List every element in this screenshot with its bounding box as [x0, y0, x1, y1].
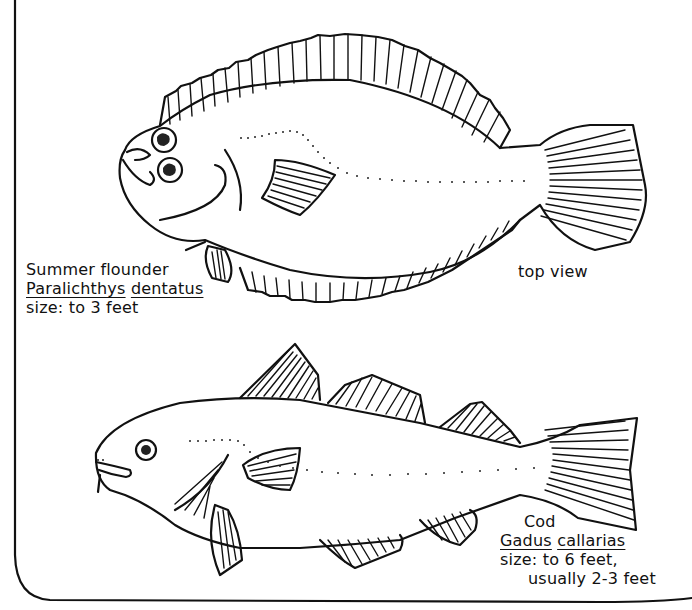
cod-dorsal-fin-2	[328, 375, 425, 423]
cod-lateral-line	[189, 439, 535, 476]
cod-scientific-name: Gadus callarias	[500, 531, 656, 550]
cod-species: callarias	[557, 531, 625, 550]
flounder-lateral-line	[240, 130, 525, 183]
cod-caption: Cod Gadus callarias size: to 6 feet, usu…	[500, 512, 656, 588]
flounder-body	[120, 80, 646, 278]
flounder-size: size: to 3 feet	[26, 298, 203, 317]
flounder-view-note: top view	[518, 262, 588, 281]
cod-genus: Gadus	[500, 531, 552, 550]
cod-mouth	[96, 462, 131, 477]
flounder-caption: Summer flounder Paralichthys dentatus si…	[26, 260, 203, 317]
cod-size-line-1: size: to 6 feet,	[500, 550, 656, 569]
cod-common-name: Cod	[500, 512, 656, 531]
cod-pectoral-fin	[243, 448, 300, 490]
flounder-genus: Paralichthys	[26, 279, 126, 298]
cod-barbel	[98, 475, 100, 492]
cod-size-line-2: usually 2-3 feet	[500, 569, 656, 588]
flounder-scientific-name: Paralichthys dentatus	[26, 279, 203, 298]
flounder-head	[123, 128, 241, 250]
illustration-page: Summer flounder Paralichthys dentatus si…	[0, 0, 692, 610]
flounder-species: dentatus	[131, 279, 204, 298]
flounder-dorsal-fin	[160, 34, 510, 148]
flounder-dorsal-rays	[168, 34, 500, 142]
flounder-anal-rays	[252, 221, 509, 301]
flounder-tail	[541, 130, 642, 240]
flounder-anal-fin	[240, 220, 520, 302]
flounder-common-name: Summer flounder	[26, 260, 203, 279]
